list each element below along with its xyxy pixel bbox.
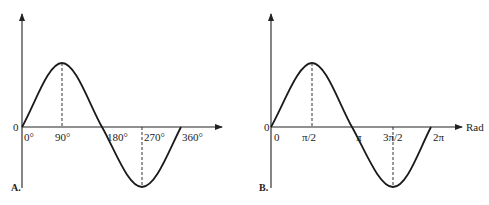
sine-curve-b (271, 63, 431, 187)
tick-label-0deg: 0° (24, 131, 34, 143)
sine-curve-a (22, 63, 181, 187)
tick-label-pi-half: π/2 (302, 131, 316, 143)
tick-label-270deg: 270° (144, 131, 165, 143)
tick-label-90deg: 90° (55, 131, 70, 143)
origin-label-a: 0 (13, 121, 19, 133)
tick-label-2pi: 2π (433, 131, 445, 143)
tick-label-360deg: 360° (182, 131, 203, 143)
sine-wave-figure: 0 0° 90° 180° 270° 360° A. 0 0 π/2 π 3π/… (0, 0, 489, 205)
origin-label-b: 0 (264, 121, 270, 133)
panel-a-degrees: 0 0° 90° 180° 270° 360° A. (11, 14, 222, 193)
tick-label-3pi-half: 3π/2 (383, 131, 403, 143)
tick-label-0rad: 0 (274, 131, 280, 143)
x-axis-unit-label: Rad (466, 121, 484, 133)
panel-b-radians: 0 0 π/2 π 3π/2 2π Rad B. (259, 14, 484, 193)
tick-label-180deg: 180° (107, 131, 128, 143)
panel-label-a: A. (11, 182, 21, 193)
tick-label-pi: π (356, 131, 362, 143)
panel-label-b: B. (259, 182, 269, 193)
